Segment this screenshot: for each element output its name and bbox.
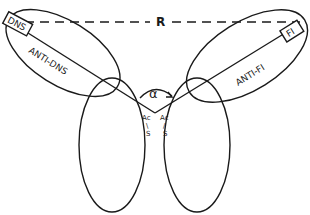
fi-antigen-tag: FI <box>280 20 304 42</box>
dns-antigen-tag: DNS <box>3 12 33 36</box>
right-arm-axis <box>155 30 290 113</box>
distance-line-r: R <box>25 15 300 29</box>
svg-text:S: S <box>163 130 168 138</box>
angle-alpha-marker: α <box>140 86 172 101</box>
svg-text:Ac: Ac <box>142 114 151 122</box>
distance-label: R <box>156 15 165 29</box>
svg-text:\: \ <box>146 122 149 130</box>
antibody-diagram: R DNS ANTI-DNS FI ANTI-FI α Ac \ S Ac / … <box>0 0 310 215</box>
right-fc-ellipse <box>164 78 230 212</box>
svg-text:α: α <box>149 86 158 101</box>
anti-dns-label: ANTI-DNS <box>27 45 70 77</box>
left-fc-ellipse <box>79 78 145 212</box>
svg-text:Ac: Ac <box>160 114 169 122</box>
svg-text:S: S <box>146 130 151 138</box>
left-arm-axis <box>28 33 155 113</box>
hinge-right-label: Ac / S <box>160 114 169 138</box>
anti-fi-label: ANTI-FI <box>234 62 267 88</box>
